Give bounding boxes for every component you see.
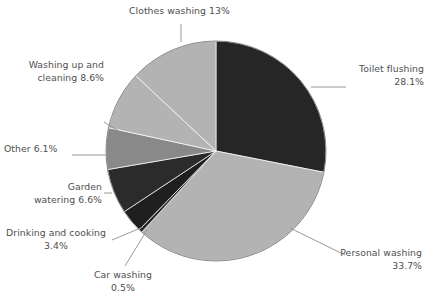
slice-label-clothes-washing: Clothes washing 13% xyxy=(129,4,279,17)
slice-label-drinking-and-cooking: Drinking and cooking 3.4% xyxy=(0,226,112,252)
leader-line-car-washing xyxy=(125,230,147,266)
slice-label-washing-up-and-cleaning: Washing up and cleaning 8.6% xyxy=(6,58,104,84)
pie-chart: Clothes washing 13% Toilet flushing 28.1… xyxy=(0,0,428,305)
slice-label-personal-washing: Personal washing 33.7% xyxy=(298,246,422,272)
pie-slice-toilet-flushing[interactable] xyxy=(216,41,326,172)
pie-slices-group xyxy=(106,41,326,261)
slice-label-other: Other 6.1% xyxy=(4,142,74,155)
slice-label-car-washing: Car washing 0.5% xyxy=(72,268,174,294)
slice-label-toilet-flushing: Toilet flushing 28.1% xyxy=(348,62,424,88)
leader-line-drinking-cooking xyxy=(112,227,143,240)
slice-label-garden-watering: Garden watering 6.6% xyxy=(2,180,102,206)
